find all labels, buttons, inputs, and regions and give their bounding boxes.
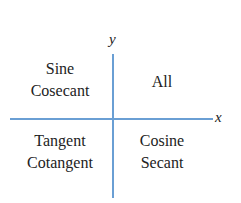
quadrant-1-line-1: All (113, 71, 211, 93)
quadrant-4-line-2: Secant (113, 152, 211, 174)
quadrant-4-line-1: Cosine (113, 130, 211, 152)
quadrant-2-line-2: Cosecant (8, 80, 112, 102)
x-axis-label: x (215, 110, 222, 125)
quadrant-3-line-2: Cotangent (8, 152, 112, 174)
quadrant-4: Cosine Secant (113, 130, 211, 174)
quadrant-3-line-1: Tangent (8, 130, 112, 152)
y-axis-label: y (109, 32, 116, 47)
x-axis (10, 118, 213, 120)
quadrant-2-line-1: Sine (8, 58, 112, 80)
quadrant-1: All (113, 71, 211, 93)
quadrant-3: Tangent Cotangent (8, 130, 112, 174)
quadrant-2: Sine Cosecant (8, 58, 112, 102)
trig-quadrant-diagram: y x Sine Cosecant All Tangent Cotangent … (0, 0, 241, 203)
